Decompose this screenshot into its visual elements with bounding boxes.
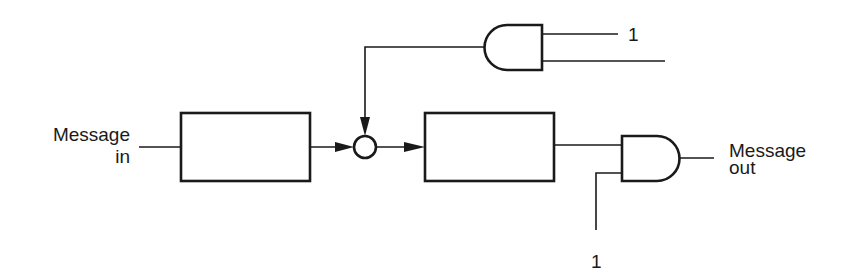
message-in-label-line2: in [115,146,130,167]
top-gate-constant-label: 1 [628,24,639,45]
arrow-right-icon [335,142,354,152]
message-in-label-line1: Message [53,124,130,145]
junction-circle [354,136,376,158]
message-out-label-line2: out [729,157,756,178]
and-gate-output [622,136,680,181]
block-1 [181,113,310,181]
output-gate-constant-wire [596,173,622,230]
arrow-right-icon [404,142,425,152]
output-gate-constant-label: 1 [591,251,602,272]
block-2 [425,113,554,181]
and-gate-top [485,25,542,70]
logic-diagram: Message in 1 1 Message out [0,0,852,280]
arrow-down-icon [360,117,370,136]
